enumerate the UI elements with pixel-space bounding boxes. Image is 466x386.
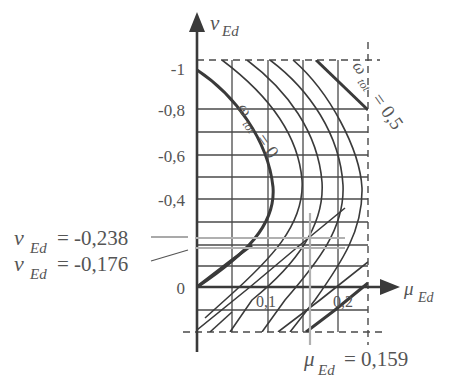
svg-text:= -0,238: = -0,238 <box>57 226 128 250</box>
svg-text:= 0,159: = 0,159 <box>344 347 408 371</box>
svg-text:= -0,176: = -0,176 <box>57 252 128 276</box>
omega-curves <box>197 60 368 332</box>
tick-label: 0,1 <box>256 293 276 310</box>
svg-text:tot: tot <box>355 76 374 95</box>
svg-text:= 0,5: = 0,5 <box>368 89 408 133</box>
svg-text:ω: ω <box>234 99 256 120</box>
tick-label: -0,8 <box>158 101 185 120</box>
interaction-diagram: ν Ed μ Ed -1 -0,8 -0,6 -0,4 0 0,1 0,2 ω … <box>0 0 466 386</box>
svg-text:Ed: Ed <box>29 266 47 282</box>
y-axis-label: ν Ed <box>210 11 239 39</box>
y-axis-label-main: ν <box>210 11 220 35</box>
x-axis-label: μ Ed <box>403 278 435 305</box>
leader-lines <box>151 237 188 261</box>
x-tick-labels: 0,1 0,2 <box>256 293 353 310</box>
tick-label: -0,4 <box>158 191 185 210</box>
label-mu-0159: μ Ed = 0,159 <box>303 347 408 378</box>
y-axis-label-sub: Ed <box>221 23 239 39</box>
x-axis-arrow-icon <box>380 279 400 295</box>
x-axis-label-sub: Ed <box>417 290 435 305</box>
y-tick-labels: -1 -0,8 -0,6 -0,4 0 <box>158 60 185 298</box>
tick-label: -0,6 <box>158 147 185 166</box>
tick-label: 0 <box>177 279 186 298</box>
svg-text:μ: μ <box>303 347 315 371</box>
svg-text:ν: ν <box>14 251 24 276</box>
x-axis-label-main: μ <box>403 278 414 299</box>
svg-text:ν: ν <box>14 225 24 250</box>
dashed-boundary <box>183 42 385 345</box>
svg-text:Ed: Ed <box>29 240 47 256</box>
tick-label: 0,2 <box>333 293 353 310</box>
tick-label: -1 <box>171 60 185 79</box>
svg-text:Ed: Ed <box>317 362 335 378</box>
y-axis-arrow-icon <box>189 12 205 32</box>
curve-omega-0 <box>197 70 273 287</box>
